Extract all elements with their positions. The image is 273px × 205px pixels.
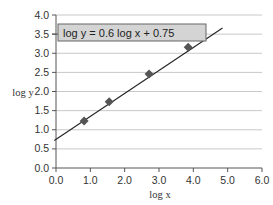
y-tick-label: 3.5: [34, 28, 49, 40]
y-tick-label: 1.5: [34, 104, 49, 116]
y-tick-label: 0.0: [34, 162, 49, 174]
x-tick-label: 5.0: [220, 174, 235, 186]
equation-box: log y = 0.6 log x + 0.75: [52, 24, 206, 41]
x-tick-label: 1.0: [83, 174, 98, 186]
equation-text: log y = 0.6 log x + 0.75: [63, 27, 174, 39]
x-tick-labels: 0.01.02.03.04.05.06.0: [49, 174, 270, 186]
chart: 0.00.51.01.52.02.53.03.54.0 0.01.02.03.0…: [0, 0, 273, 205]
y-tick-label: 3.0: [34, 47, 49, 59]
x-tick-label: 0.0: [49, 174, 64, 186]
y-tick-label: 4.0: [34, 9, 49, 21]
y-tick-label: 2.5: [34, 66, 49, 78]
x-tick-label: 6.0: [255, 174, 270, 186]
data-points: [80, 43, 193, 126]
x-tick-label: 2.0: [117, 174, 132, 186]
diamond-marker: [184, 43, 193, 52]
y-tick-label: 0.5: [34, 142, 49, 154]
y-tick-label: 1.0: [34, 123, 49, 135]
x-tick-label: 4.0: [186, 174, 201, 186]
x-tick-label: 3.0: [152, 174, 167, 186]
y-tick-labels: 0.00.51.01.52.02.53.03.54.0: [34, 9, 49, 174]
y-axis-title: log y: [12, 87, 34, 98]
diamond-marker: [105, 97, 114, 106]
trendline: [54, 28, 222, 140]
diamond-marker: [145, 69, 154, 78]
y-tick-label: 2.0: [34, 85, 49, 97]
x-axis-title: log x: [149, 189, 171, 200]
trendline-line: [54, 28, 222, 140]
